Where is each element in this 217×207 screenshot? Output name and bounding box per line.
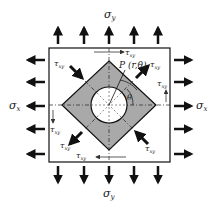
sigma-y-bottom-arrows [58, 166, 158, 182]
sigma-x-left-label: σx [9, 99, 21, 113]
sigma-y-top-label: σy [104, 8, 117, 22]
theta-label: θ [127, 93, 132, 102]
sigma-x-right-label: σx [196, 99, 208, 113]
sigma-x-right-arrows [174, 60, 191, 154]
sigma-y-bottom-label: σy [103, 187, 116, 201]
point-p-label: P (r,θ) [118, 60, 147, 70]
sigma-y-top-arrows [58, 28, 158, 44]
sigma-x-left-arrows [28, 60, 45, 154]
stress-diagram: σy σy σx σx τxy τxy τxy τxy τxy τxy τxy … [0, 0, 217, 207]
